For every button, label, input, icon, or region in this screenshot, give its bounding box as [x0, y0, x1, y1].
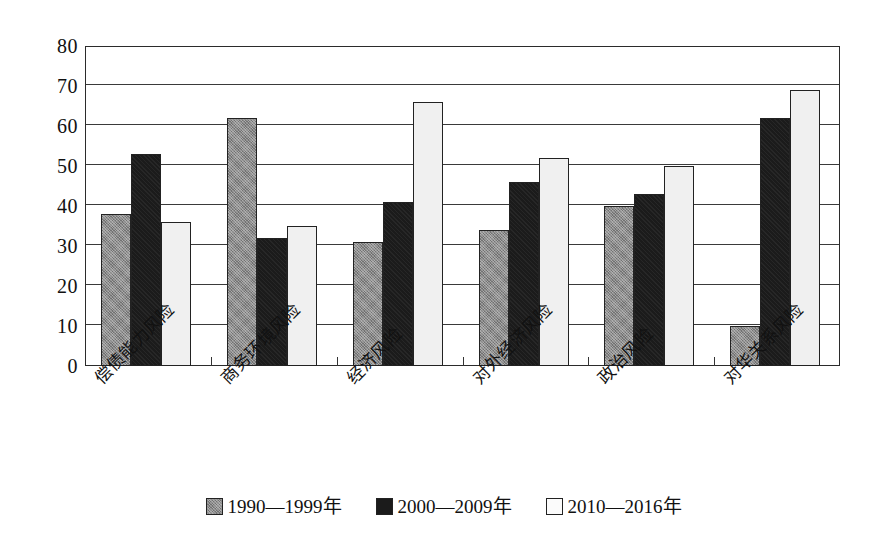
white-square-icon	[546, 498, 563, 515]
y-axis-tick-label: 60	[36, 116, 78, 136]
legend-label: 1990—1999年	[228, 497, 342, 516]
gridline	[86, 324, 839, 325]
legend-label: 2000—2009年	[398, 497, 512, 516]
bar-chart-figure: 80706050403020100 偿债能力风险商务环境风险经济风险对外经济风险…	[0, 0, 887, 547]
plot-area	[85, 46, 840, 366]
gridline	[86, 84, 839, 85]
gridline	[86, 284, 839, 285]
y-axis-tick-label: 0	[36, 356, 78, 376]
legend-item[interactable]: 1990—1999年	[206, 497, 342, 516]
y-axis-tick-label: 70	[36, 76, 78, 96]
y-axis-tick-label: 50	[36, 156, 78, 176]
gridline	[86, 164, 839, 165]
y-axis-tick-label: 40	[36, 196, 78, 216]
legend-label: 2010—2016年	[568, 497, 682, 516]
chart-legend: 1990—1999年2000—2009年2010—2016年	[0, 497, 887, 516]
y-axis-tick-label: 80	[36, 36, 78, 56]
y-axis: 80706050403020100	[33, 46, 78, 366]
y-axis-tick-label: 20	[36, 276, 78, 296]
y-axis-tick-label: 30	[36, 236, 78, 256]
gridline	[86, 124, 839, 125]
gridline	[86, 204, 839, 205]
y-axis-tick-label: 10	[36, 316, 78, 336]
black-square-icon	[376, 498, 393, 515]
legend-item[interactable]: 2010—2016年	[546, 497, 682, 516]
x-axis-labels: 偿债能力风险商务环境风险经济风险对外经济风险政治风险对华关系风险	[85, 366, 840, 496]
gridline	[86, 244, 839, 245]
gray-square-icon	[206, 498, 223, 515]
legend-item[interactable]: 2000—2009年	[376, 497, 512, 516]
